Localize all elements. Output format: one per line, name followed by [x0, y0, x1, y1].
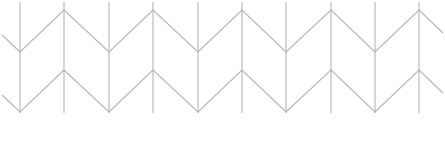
- zigzag-row-2: [2, 70, 443, 112]
- zigzag-lines: [2, 10, 443, 112]
- zigzag-row-1: [2, 10, 443, 52]
- chevron-pattern: [0, 0, 445, 141]
